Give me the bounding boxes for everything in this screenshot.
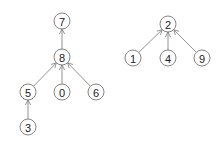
node-label: 4 bbox=[165, 53, 171, 65]
node-label: 0 bbox=[59, 87, 65, 99]
node-1: 1 bbox=[125, 50, 141, 66]
edge-1-to-2 bbox=[139, 30, 163, 53]
node-label: 5 bbox=[25, 87, 31, 99]
node-6: 6 bbox=[88, 84, 104, 100]
edges-layer bbox=[25, 29, 196, 119]
node-8: 8 bbox=[54, 49, 70, 65]
node-label: 8 bbox=[59, 52, 65, 64]
node-label: 7 bbox=[59, 16, 65, 28]
node-9: 9 bbox=[194, 50, 210, 66]
node-label: 6 bbox=[93, 87, 99, 99]
edge-5-to-8 bbox=[34, 63, 57, 87]
node-5: 5 bbox=[20, 84, 36, 100]
node-label: 3 bbox=[25, 122, 31, 134]
edge-9-to-2 bbox=[174, 30, 197, 53]
node-0: 0 bbox=[54, 84, 70, 100]
node-label: 1 bbox=[130, 53, 136, 65]
node-4: 4 bbox=[160, 50, 176, 66]
edge-8-to-7 bbox=[59, 29, 64, 49]
forest-diagram: 7850632149 bbox=[0, 0, 223, 143]
edge-4-to-2 bbox=[165, 32, 170, 50]
edge-line bbox=[174, 30, 197, 53]
node-label: 2 bbox=[165, 19, 171, 31]
edge-line bbox=[68, 63, 91, 87]
node-3: 3 bbox=[20, 119, 36, 135]
edge-line bbox=[34, 63, 57, 87]
node-2: 2 bbox=[160, 16, 176, 32]
edge-line bbox=[139, 30, 163, 53]
edge-3-to-5 bbox=[25, 100, 30, 119]
node-label: 9 bbox=[199, 53, 205, 65]
edge-0-to-8 bbox=[59, 65, 64, 84]
node-7: 7 bbox=[54, 13, 70, 29]
nodes-layer: 7850632149 bbox=[20, 13, 210, 135]
edge-6-to-8 bbox=[68, 63, 91, 87]
